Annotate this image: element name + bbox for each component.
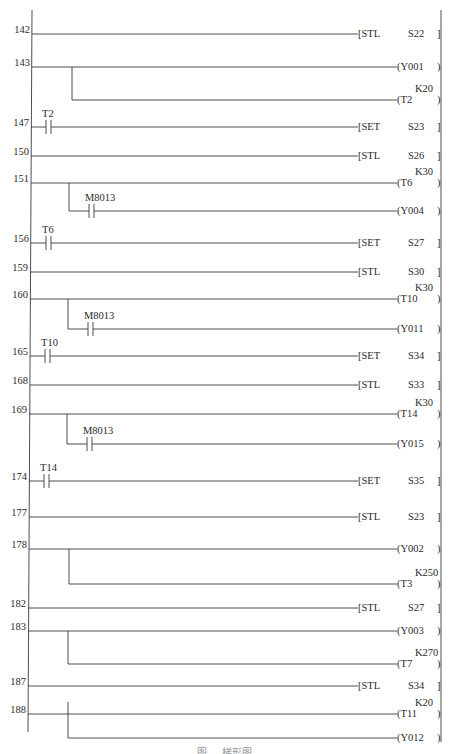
rung-151-coil-1-preset: K30 [415, 166, 433, 177]
rung-183-coil-2-label: (T7 [397, 658, 412, 670]
rung-143-coil-1-paren-close: ) [437, 61, 441, 73]
rung-178-coil-2-preset: K250 [415, 567, 438, 578]
rung-183-coil-2-preset: K270 [415, 647, 438, 658]
rung-150-step-number: 150 [13, 146, 29, 157]
rung-147-step-number: 147 [13, 117, 29, 128]
rung-169-coil-1-paren-close: ) [437, 408, 441, 420]
rung-142-operand: S22 [408, 28, 424, 39]
rung-159-operand: S30 [408, 266, 424, 277]
rung-151-coil-2-label: (Y004 [397, 205, 425, 217]
rung-142-step-number: 142 [14, 24, 30, 35]
rung-143-coil-1-label: (Y001 [397, 61, 424, 73]
rung-169-coil-1-label: (T14 [397, 408, 418, 420]
rung-188-coil-2-label: (Y012 [397, 732, 424, 744]
rung-147-operand: S23 [408, 121, 424, 132]
rung-169-step-number: 169 [11, 404, 27, 415]
rung-160-branch-contact-label: M8013 [84, 310, 114, 321]
rung-174-instruction: [SET [358, 475, 381, 486]
rung-168-bracket-close: ] [437, 379, 441, 390]
rung-142-instruction: [STL [358, 28, 380, 39]
rung-159-step-number: 159 [12, 262, 28, 273]
rung-169-branch-contact-label: M8013 [83, 425, 113, 436]
rung-159-instruction: [STL [358, 266, 380, 277]
rung-165-step-number: 165 [12, 346, 28, 357]
rung-150-bracket-close: ] [437, 150, 441, 161]
rung-188-coil-2-paren-close: ) [437, 732, 441, 744]
rung-168-operand: S33 [408, 379, 424, 390]
rung-187-bracket-close: ] [437, 680, 441, 691]
rung-151-coil-1-label: (T6 [397, 177, 412, 189]
rung-178-step-number: 178 [11, 539, 27, 550]
rung-169-coil-2-paren-close: ) [437, 438, 441, 450]
rung-165-operand: S34 [408, 350, 425, 361]
rung-151-step-number: 151 [13, 173, 29, 184]
rung-151-coil-2-paren-close: ) [437, 205, 441, 217]
rung-168-instruction: [STL [358, 379, 380, 390]
rung-156-step-number: 156 [13, 233, 29, 244]
rung-147-contact-label: T2 [42, 108, 54, 119]
ladder-diagram: 142[STLS22]143(Y001)(T2)K20147T2[SETS23]… [0, 0, 449, 754]
rung-178-coil-1-label: (Y002 [397, 543, 424, 555]
rung-156-instruction: [SET [358, 237, 381, 248]
rung-147-instruction: [SET [358, 121, 381, 132]
rung-156-operand: S27 [408, 237, 424, 248]
rung-183-coil-1-label: (Y003 [397, 625, 424, 637]
rung-169-coil-2-label: (Y015 [397, 438, 424, 450]
rung-156-contact-label: T6 [42, 224, 54, 235]
rung-143-step-number: 143 [14, 57, 30, 68]
rung-182-instruction: [STL [358, 602, 380, 613]
rung-156-bracket-close: ] [437, 237, 441, 248]
rung-150-operand: S26 [408, 150, 424, 161]
rung-177-bracket-close: ] [437, 511, 441, 522]
rung-178-coil-1-paren-close: ) [437, 543, 441, 555]
rung-165-contact-label: T10 [41, 337, 58, 348]
rung-165-bracket-close: ] [437, 350, 441, 361]
rung-177-operand: S23 [408, 511, 424, 522]
rung-187-operand: S34 [408, 680, 425, 691]
rung-160-coil-1-label: (T10 [397, 293, 417, 305]
rung-174-operand: S35 [408, 475, 424, 486]
rung-183-coil-2-paren-close: ) [437, 658, 441, 670]
rung-151-coil-1-paren-close: ) [437, 177, 441, 189]
rung-169-coil-1-preset: K30 [415, 397, 433, 408]
rung-160-coil-2-label: (Y011 [397, 323, 423, 335]
rung-177-instruction: [STL [358, 511, 380, 522]
rung-143-coil-2-preset: K20 [415, 83, 433, 94]
rung-177-step-number: 177 [11, 507, 27, 518]
rung-188-coil-1-paren-close: ) [437, 708, 441, 720]
rung-188-coil-1-preset: K20 [415, 697, 433, 708]
rung-178-coil-2-paren-close: ) [437, 578, 441, 590]
rung-182-operand: S27 [408, 602, 424, 613]
rung-142-bracket-close: ] [437, 28, 441, 39]
rung-174-step-number: 174 [11, 471, 28, 482]
rung-160-coil-1-paren-close: ) [437, 293, 441, 305]
rung-183-coil-1-paren-close: ) [437, 625, 441, 637]
rung-183-step-number: 183 [10, 621, 26, 632]
rung-150-instruction: [STL [358, 150, 380, 161]
rung-143-coil-2-paren-close: ) [437, 94, 441, 106]
rung-182-bracket-close: ] [437, 602, 441, 613]
rung-160-coil-1-preset: K30 [415, 282, 433, 293]
rung-178-coil-2-label: (T3 [397, 578, 412, 590]
rung-160-coil-2-paren-close: ) [437, 323, 441, 335]
rung-174-bracket-close: ] [437, 475, 441, 486]
rung-151-branch-contact-label: M8013 [85, 192, 115, 203]
figure-caption: 图 … 梯形图 [0, 746, 449, 754]
rung-187-step-number: 187 [10, 676, 26, 687]
rung-182-step-number: 182 [10, 598, 26, 609]
rung-159-bracket-close: ] [437, 266, 441, 277]
rung-143-coil-2-label: (T2 [397, 94, 412, 106]
rung-187-instruction: [STL [358, 680, 380, 691]
rung-160-step-number: 160 [12, 289, 28, 300]
rung-165-instruction: [SET [358, 350, 381, 361]
rung-168-step-number: 168 [12, 375, 28, 386]
rung-188-coil-1-label: (T11 [397, 708, 417, 720]
rung-174-contact-label: T14 [40, 462, 58, 473]
rung-188-step-number: 188 [10, 704, 26, 715]
rung-147-bracket-close: ] [437, 121, 441, 132]
